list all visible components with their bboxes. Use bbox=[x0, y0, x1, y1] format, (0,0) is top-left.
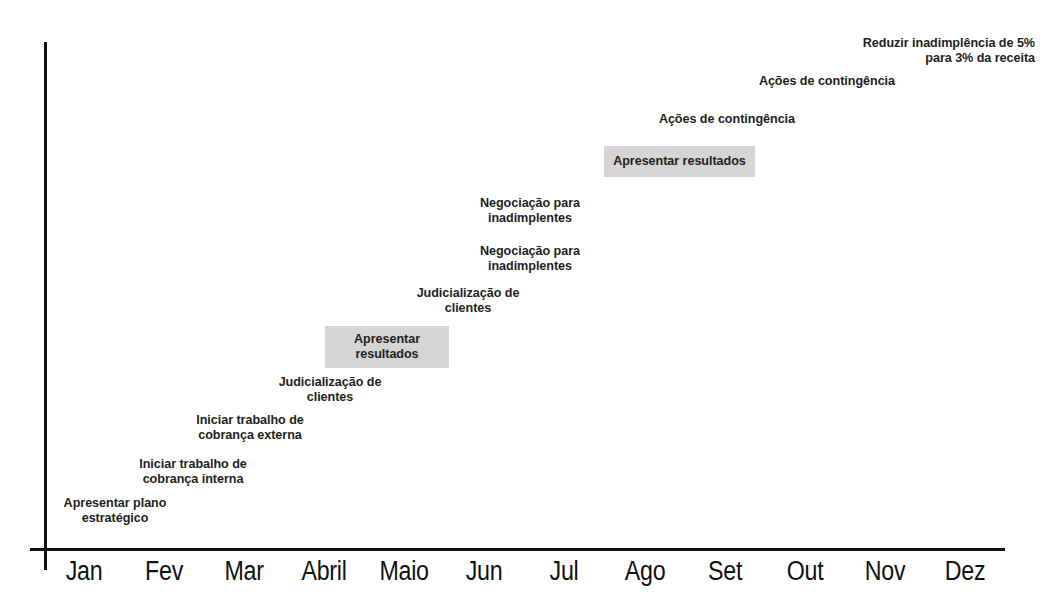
milestone-label-judicializacao-abril: Judicialização de clientes bbox=[215, 375, 445, 406]
milestone-box-apresentar-resultados-ago: Apresentar resultados bbox=[604, 146, 755, 177]
x-axis-line bbox=[30, 548, 1005, 551]
x-axis-tick-set: Set bbox=[690, 554, 759, 594]
x-axis-tick-fev: Fev bbox=[130, 554, 199, 594]
milestone-label-reduzir-inadimplencia: Reduzir inadimplência de 5% para 3% da r… bbox=[735, 36, 1035, 67]
x-axis-tick-out: Out bbox=[770, 554, 839, 594]
x-axis-tick-nov: Nov bbox=[850, 554, 919, 594]
x-axis-tick-dez: Dez bbox=[930, 554, 999, 594]
milestone-label-negociacao-jun: Negociação para inadimplentes bbox=[415, 244, 645, 275]
milestone-label-negociacao-jul: Negociação para inadimplentes bbox=[415, 196, 645, 227]
x-axis-tick-jan: Jan bbox=[50, 554, 119, 594]
x-axis-tick-abril: Abril bbox=[290, 554, 359, 594]
milestone-label-iniciar-cobranca-interna: Iniciar trabalho de cobrança interna bbox=[78, 457, 308, 488]
milestone-label-judicializacao-maio: Judicialização de clientes bbox=[353, 286, 583, 317]
milestone-label-acoes-contingencia-set: Ações de contingência bbox=[495, 112, 795, 127]
milestone-box-label: Apresentar resultados bbox=[613, 154, 746, 169]
milestone-label-apresentar-plano: Apresentar plano estratégico bbox=[0, 496, 230, 527]
x-axis-tick-mar: Mar bbox=[210, 554, 279, 594]
x-axis-tick-maio: Maio bbox=[370, 554, 439, 594]
y-axis-line bbox=[44, 42, 47, 570]
milestone-label-iniciar-cobranca-externa: Iniciar trabalho de cobrança externa bbox=[135, 413, 365, 444]
x-axis-tick-ago: Ago bbox=[610, 554, 679, 594]
x-axis-tick-jul: Jul bbox=[530, 554, 599, 594]
x-axis-tick-labels: Jan Fev Mar Abril Maio Jun Jul Ago Set O… bbox=[44, 554, 1005, 594]
roadmap-chart: Reduzir inadimplência de 5% para 3% da r… bbox=[0, 0, 1053, 608]
milestone-box-apresentar-resultados-abril: Apresentar resultados bbox=[325, 326, 449, 368]
milestone-label-acoes-contingencia-nov: Ações de contingência bbox=[595, 74, 895, 89]
x-axis-tick-jun: Jun bbox=[450, 554, 519, 594]
milestone-box-label: Apresentar resultados bbox=[354, 332, 420, 363]
